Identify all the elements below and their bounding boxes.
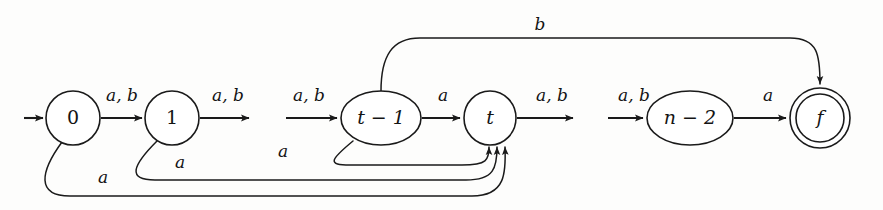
edge-0-to-t-a <box>45 142 505 196</box>
state-qt1-label: t − 1 <box>357 106 405 128</box>
edge-label-incoming-n2: a, b <box>618 85 650 105</box>
state-q1-label: 1 <box>166 106 178 128</box>
state-qt[interactable]: t <box>464 91 516 145</box>
edge-1-to-t-a <box>136 141 497 180</box>
state-q0[interactable]: 0 <box>46 91 100 145</box>
edge-t1-to-f-b <box>381 38 820 91</box>
edge-label-t-outgoing: a, b <box>536 85 568 105</box>
state-qn2[interactable]: n − 2 <box>647 91 733 145</box>
automaton-diagram: 0 1 t − 1 t n − 2 f <box>0 0 883 210</box>
edge-t1-to-t-a <box>334 141 489 165</box>
bottom-arc-edges <box>45 141 505 196</box>
edge-label-t1-to-t: a <box>438 85 448 105</box>
edge-label-0-to-t-a: a <box>98 167 108 187</box>
edge-label-0-to-1: a, b <box>106 85 138 105</box>
state-qn2-label: n − 2 <box>664 106 716 128</box>
top-arc-edge <box>381 38 820 91</box>
edge-label-1-to-t-a: a <box>175 152 185 172</box>
state-qf-accepting[interactable]: f <box>790 88 850 148</box>
automaton-canvas: 0 1 t − 1 t n − 2 f <box>0 0 883 210</box>
edge-label-incoming-t1: a, b <box>293 85 325 105</box>
edge-label-n2-to-f: a <box>763 85 773 105</box>
edge-label-1-outgoing: a, b <box>212 85 244 105</box>
state-qt1[interactable]: t − 1 <box>341 91 421 145</box>
edge-label-t1-to-t-a: a <box>278 141 288 161</box>
state-q1[interactable]: 1 <box>145 91 199 145</box>
state-q0-label: 0 <box>67 106 79 128</box>
edge-label-t1-to-f-b: b <box>535 14 546 34</box>
state-qt-label: t <box>486 106 494 128</box>
